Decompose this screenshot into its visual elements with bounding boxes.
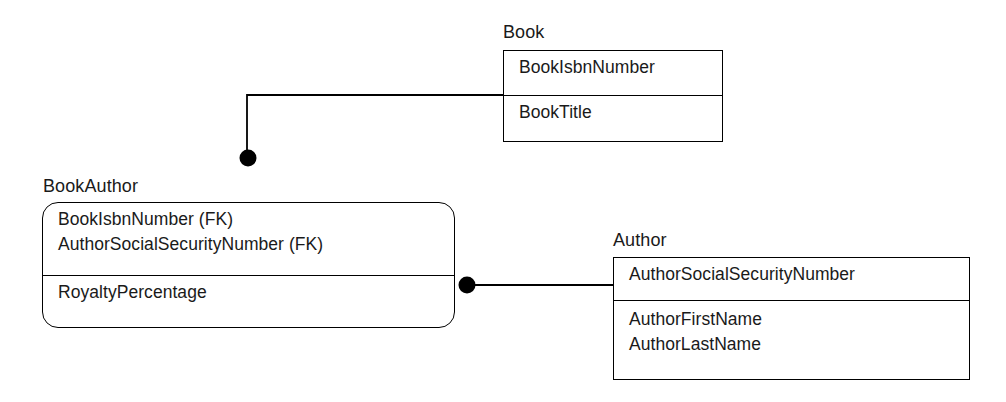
relationship-line [247,95,503,151]
attribute: AuthorFirstName [629,307,762,332]
entity-bookauthor-key-compartment: BookIsbnNumber (FK) AuthorSocialSecurity… [43,203,454,276]
entity-bookauthor-title: BookAuthor [43,176,138,196]
attribute: BookIsbnNumber (FK) [58,207,323,232]
relationship-book-to-bookauthor[interactable] [240,95,504,167]
entity-book-key-attributes: BookIsbnNumber [519,55,655,80]
entity-book-title: Book [503,22,544,42]
entity-book-key-compartment: BookIsbnNumber [504,51,722,96]
attribute: AuthorSocialSecurityNumber (FK) [58,232,323,257]
relationship-author-to-bookauthor[interactable] [459,277,614,294]
entity-book-non-key-attributes: BookTitle [519,100,592,125]
cardinality-filled-circle-icon [240,150,257,167]
entity-bookauthor-non-key-attributes: RoyaltyPercentage [58,280,207,305]
entity-book-box[interactable]: BookIsbnNumber BookTitle [503,50,723,142]
er-diagram-canvas: Book BookIsbnNumber BookTitle BookAuthor… [0,0,1006,402]
entity-book-attr-compartment: BookTitle [504,96,722,141]
entity-author-key-attributes: AuthorSocialSecurityNumber [629,262,855,287]
attribute: AuthorSocialSecurityNumber [629,262,855,287]
entity-bookauthor-attr-compartment: RoyaltyPercentage [43,276,454,326]
attribute: BookIsbnNumber [519,55,655,80]
entity-author-box[interactable]: AuthorSocialSecurityNumber AuthorFirstNa… [613,257,970,380]
attribute: BookTitle [519,100,592,125]
entity-author-non-key-attributes: AuthorFirstName AuthorLastName [629,307,762,357]
cardinality-filled-circle-icon [459,277,476,294]
entity-author-key-compartment: AuthorSocialSecurityNumber [614,258,969,301]
entity-bookauthor-box[interactable]: BookIsbnNumber (FK) AuthorSocialSecurity… [42,202,455,328]
attribute: RoyaltyPercentage [58,280,207,305]
attribute: AuthorLastName [629,332,762,357]
entity-author-title: Author [613,230,667,250]
entity-bookauthor-key-attributes: BookIsbnNumber (FK) AuthorSocialSecurity… [58,207,323,257]
entity-author-attr-compartment: AuthorFirstName AuthorLastName [614,301,969,378]
